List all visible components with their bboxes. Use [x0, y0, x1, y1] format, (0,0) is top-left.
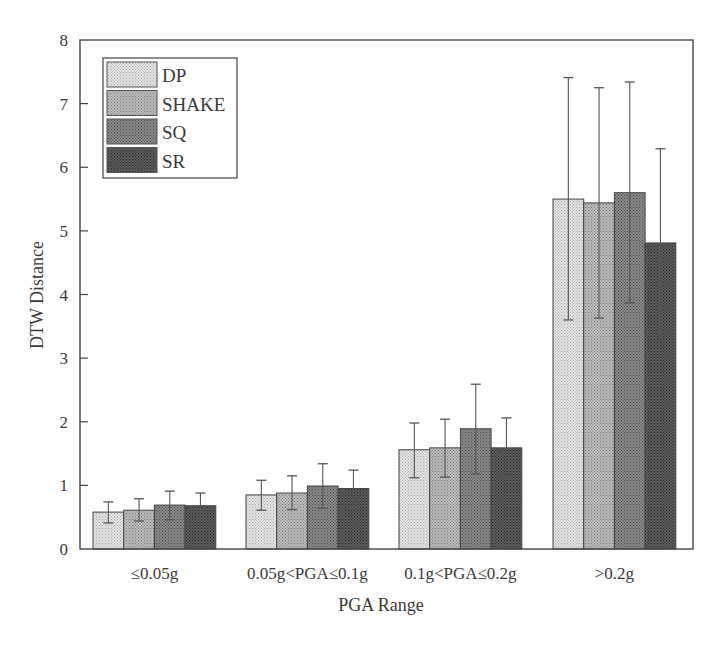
y-tick-label: 5 [60, 222, 69, 241]
y-axis: 012345678 [60, 31, 89, 559]
y-tick-label: 8 [60, 31, 69, 50]
bar-group [553, 193, 676, 549]
legend-item-dp: DP [107, 62, 186, 87]
bar-group [93, 505, 216, 549]
legend-item-sq: SQ [107, 119, 187, 144]
y-axis-title: DTW Distance [27, 241, 47, 349]
x-tick-label: 0.05g<PGA≤0.1g [247, 564, 368, 583]
bar-group [246, 486, 369, 549]
y-tick-label: 0 [60, 540, 69, 559]
x-tick-label: 0.1g<PGA≤0.2g [404, 564, 517, 583]
bar-group [399, 429, 522, 549]
y-tick-label: 3 [60, 349, 69, 368]
y-tick-label: 6 [60, 158, 69, 177]
legend-swatch [107, 62, 157, 87]
y-tick-label: 2 [60, 413, 69, 432]
bars-layer [93, 193, 676, 549]
x-tick-label: ≤0.05g [131, 564, 179, 583]
y-tick-label: 4 [60, 286, 69, 305]
legend-label: DP [162, 65, 186, 86]
y-tick-label: 1 [60, 476, 69, 495]
legend-swatch [107, 148, 157, 173]
legend-item-sr: SR [107, 148, 186, 173]
bar-chart: 012345678 ≤0.05g0.05g<PGA≤0.1g0.1g<PGA≤0… [0, 0, 725, 647]
legend-label: SHAKE [162, 94, 225, 115]
x-axis-title: PGA Range [338, 595, 424, 615]
legend-item-shake: SHAKE [107, 91, 225, 116]
legend-label: SQ [162, 122, 187, 143]
x-tick-label: >0.2g [595, 564, 635, 583]
legend-label: SR [162, 151, 186, 172]
x-axis: ≤0.05g0.05g<PGA≤0.1g0.1g<PGA≤0.2g>0.2g [131, 564, 635, 583]
y-tick-label: 7 [60, 95, 69, 114]
legend: DPSHAKESQSR [103, 58, 237, 178]
legend-swatch [107, 119, 157, 144]
legend-swatch [107, 91, 157, 116]
